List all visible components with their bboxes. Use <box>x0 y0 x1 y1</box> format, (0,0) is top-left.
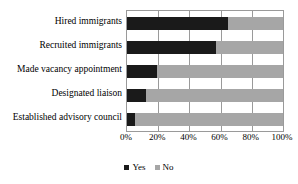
x-tick-label: 40% <box>180 132 197 142</box>
x-tick-label: 60% <box>211 132 228 142</box>
bar-track <box>127 89 283 102</box>
bar-segment-no <box>135 113 283 126</box>
bar-segment-yes <box>127 113 135 126</box>
category-label: Hired immigrants <box>55 17 122 27</box>
bar-row <box>127 59 283 83</box>
category-label: Made vacancy appointment <box>17 65 122 75</box>
category-label-row: Hired immigrants <box>0 10 126 34</box>
bar-chart: Hired immigrants Recruited immigrants Ma… <box>0 0 298 184</box>
bar-row <box>127 83 283 107</box>
bar-track <box>127 17 283 30</box>
legend-label: Yes <box>132 163 145 172</box>
x-tick-label: 80% <box>243 132 260 142</box>
bar-segment-yes <box>127 17 228 30</box>
category-label: Established advisory council <box>13 113 122 123</box>
legend-swatch-icon <box>155 165 160 170</box>
bar-segment-no <box>228 17 283 30</box>
legend-item-no: No <box>155 163 174 172</box>
legend-label: No <box>163 163 174 172</box>
category-label-row: Made vacancy appointment <box>0 58 126 82</box>
bar-segment-yes <box>127 41 216 54</box>
bar-segment-no <box>216 41 283 54</box>
bar-row <box>127 107 283 131</box>
category-axis: Hired immigrants Recruited immigrants Ma… <box>0 10 126 130</box>
category-label-row: Established advisory council <box>0 106 126 130</box>
bar-track <box>127 41 283 54</box>
bar-track <box>127 113 283 126</box>
x-tick-label: 100% <box>272 132 293 142</box>
x-tick-label: 0% <box>120 132 132 142</box>
bar-segment-no <box>157 65 283 78</box>
bar-segment-no <box>146 89 283 102</box>
bar-segment-yes <box>127 89 146 102</box>
legend-item-yes: Yes <box>124 163 145 172</box>
x-axis: 0%20%40%60%80%100% <box>126 132 284 146</box>
legend-swatch-icon <box>124 165 129 170</box>
category-label: Recruited immigrants <box>39 41 122 51</box>
bar-row <box>127 11 283 35</box>
plot-area <box>126 10 284 132</box>
chart-legend: Yes No <box>0 163 298 172</box>
category-label-row: Designated liaison <box>0 82 126 106</box>
bar-row <box>127 35 283 59</box>
category-label: Designated liaison <box>52 89 122 99</box>
bar-track <box>127 65 283 78</box>
bar-segment-yes <box>127 65 157 78</box>
bars-layer <box>127 11 283 131</box>
x-tick-label: 20% <box>149 132 166 142</box>
category-label-row: Recruited immigrants <box>0 34 126 58</box>
